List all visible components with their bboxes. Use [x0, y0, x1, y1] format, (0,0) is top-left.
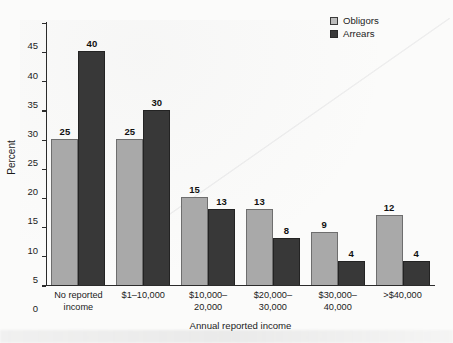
- bar-arrears: 40: [78, 51, 105, 284]
- bar-value-label: 13: [216, 196, 227, 207]
- y-axis-tick: [42, 285, 46, 286]
- y-axis-tick-label: 20: [27, 186, 38, 197]
- x-axis-tick-label: $30,000– 40,000: [305, 290, 370, 313]
- bar-arrears: 8: [273, 238, 300, 285]
- bar-value-label: 40: [87, 38, 98, 49]
- bar-chart: Obligors Arrears Percent 051015202530354…: [0, 0, 453, 343]
- bar-value-label: 12: [384, 202, 395, 213]
- x-axis-title: Annual reported income: [46, 320, 435, 331]
- y-axis-tick-label: 10: [27, 244, 38, 255]
- bar-arrears: 30: [143, 110, 170, 285]
- bar-obligors: 25: [116, 139, 143, 285]
- x-axis-tick-label: >$40,000: [370, 290, 435, 313]
- bar-value-label: 9: [322, 219, 327, 230]
- plot-area: 25402530151313894124: [46, 22, 435, 286]
- x-axis-tick-label: $10,000– 20,000: [176, 290, 241, 313]
- bar-value-label: 15: [189, 184, 200, 195]
- bar-group: 94: [305, 22, 370, 285]
- bar-group: 2530: [111, 22, 176, 285]
- x-axis-tick-label: $1–10,000: [111, 290, 176, 313]
- bar-value-label: 4: [413, 248, 418, 259]
- bar-value-label: 25: [60, 126, 71, 137]
- bar-groups: 25402530151313894124: [46, 22, 435, 285]
- x-axis-tick-label: $20,000– 30,000: [240, 290, 305, 313]
- y-axis-tick-label: 25: [27, 157, 38, 168]
- y-axis-tick-label: 5: [33, 273, 38, 284]
- bar-group: 1513: [176, 22, 241, 285]
- bar-value-label: 4: [349, 248, 354, 259]
- bar-obligors: 13: [246, 209, 273, 285]
- bar-value-label: 8: [284, 225, 289, 236]
- y-axis-tick-label: 30: [27, 127, 38, 138]
- bar-obligors: 9: [311, 232, 338, 285]
- bar-group: 2540: [46, 22, 111, 285]
- bar-arrears: 4: [338, 261, 365, 284]
- bar-group: 138: [240, 22, 305, 285]
- bar-obligors: 15: [181, 197, 208, 285]
- y-axis-tick-label: 35: [27, 98, 38, 109]
- bar-obligors: 12: [376, 215, 403, 285]
- bar-value-label: 25: [124, 126, 135, 137]
- y-axis-tick-label: 45: [27, 40, 38, 51]
- y-axis-tick-label: 0: [33, 303, 38, 314]
- y-axis-tick-label: 15: [27, 215, 38, 226]
- x-axis-tick-labels: No reported income$1–10,000$10,000– 20,0…: [46, 290, 435, 313]
- bar-arrears: 13: [208, 209, 235, 285]
- x-axis-tick-label: No reported income: [46, 290, 111, 313]
- bar-group: 124: [370, 22, 435, 285]
- x-axis-line: [46, 285, 435, 286]
- bar-obligors: 25: [51, 139, 78, 285]
- bar-arrears: 4: [403, 261, 430, 284]
- y-axis-tick-labels: 051015202530354045: [0, 22, 38, 286]
- bar-value-label: 13: [254, 196, 265, 207]
- scan-bottom-text-artifact: [0, 330, 453, 343]
- bar-value-label: 30: [151, 97, 162, 108]
- y-axis-tick-label: 40: [27, 69, 38, 80]
